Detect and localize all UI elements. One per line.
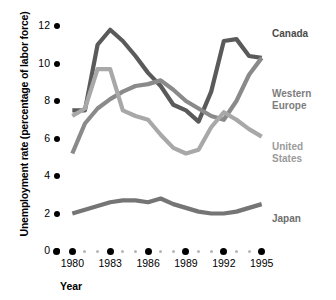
series-label-canada: Canada — [272, 28, 308, 40]
series-label-united-states: United States — [272, 141, 303, 164]
series-line-japan — [72, 199, 261, 214]
unemployment-line-chart: Unemployment rate (percentage of labor f… — [0, 0, 336, 300]
series-label-western-europe: Western Europe — [272, 88, 311, 111]
x-axis-title: Year — [60, 280, 82, 292]
series-line-united-states — [72, 69, 261, 153]
series-label-japan: Japan — [272, 213, 301, 225]
